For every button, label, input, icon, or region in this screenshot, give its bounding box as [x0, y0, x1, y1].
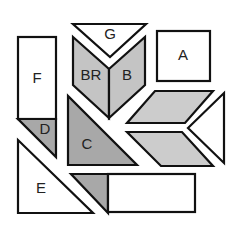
label-d: D — [40, 120, 51, 137]
label-e: E — [36, 179, 46, 196]
tangram-diagram: G BR B A F D C E — [0, 0, 244, 227]
label-c: C — [82, 135, 93, 152]
label-f: F — [32, 69, 41, 86]
label-a: A — [178, 46, 188, 63]
label-g: G — [104, 25, 116, 42]
piece-rectangle-bottom — [108, 174, 195, 212]
label-b: B — [122, 66, 132, 83]
label-br: BR — [81, 66, 102, 83]
